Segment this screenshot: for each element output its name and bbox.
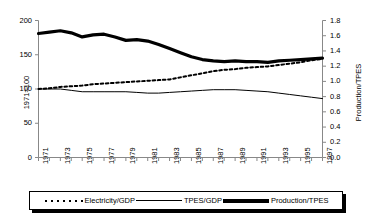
legend-item-tpes-gdp: TPES/GDP (136, 196, 223, 205)
thin-line-swatch-icon (136, 200, 182, 201)
plot-area (0, 0, 375, 219)
series-line-tpes-gdp (39, 89, 323, 99)
series-line-electricity-gdp (39, 59, 323, 89)
data-series (39, 31, 323, 99)
dotted-line-swatch-icon (43, 200, 83, 202)
axes (35, 21, 326, 162)
legend-item-electricity-gdp: Electricity/GDP (43, 196, 136, 205)
legend-label: Electricity/GDP (83, 196, 136, 205)
chart-container: 1971=100 Production/TPES 050100150200 0.… (0, 0, 375, 219)
thick-line-swatch-icon (223, 199, 269, 203)
legend-label: Production/TPES (269, 196, 330, 205)
legend-label: TPES/GDP (182, 196, 223, 205)
series-line-production-tpes (39, 31, 323, 63)
legend-item-production-tpes: Production/TPES (223, 196, 330, 205)
chart-legend: Electricity/GDP TPES/GDP Production/TPES (29, 191, 343, 210)
